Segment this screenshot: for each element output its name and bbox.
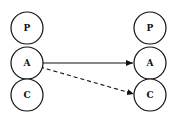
node-label: C [146,90,153,100]
edge-a-to-c-dashed [40,67,134,94]
node-label: P [147,23,154,33]
right-node-p: P [134,12,166,44]
node-label: P [24,23,31,33]
left-node-c: C [11,79,43,111]
diagram-canvas: P A C P A C [0,0,177,119]
left-node-a: A [11,47,43,79]
node-label: C [23,90,30,100]
node-label: A [146,58,155,68]
left-node-p: P [11,12,43,44]
right-node-c: C [134,79,166,111]
node-label: A [23,58,32,68]
right-node-a: A [134,47,166,79]
